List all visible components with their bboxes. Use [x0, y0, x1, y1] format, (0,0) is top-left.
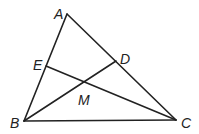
triangle-diagram: A B C D E M: [0, 0, 199, 134]
segment-ab: [24, 14, 67, 121]
label-e: E: [33, 57, 43, 73]
label-d: D: [120, 51, 130, 67]
label-c: C: [181, 115, 192, 131]
segments: [24, 14, 176, 121]
label-b: B: [10, 115, 19, 131]
label-m: M: [78, 92, 90, 108]
segment-bc: [24, 120, 176, 121]
label-a: A: [53, 6, 63, 22]
